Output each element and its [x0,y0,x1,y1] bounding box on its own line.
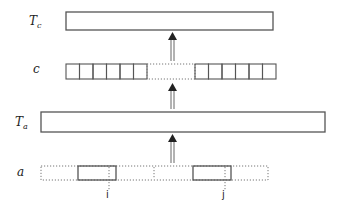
c-cell [120,64,134,79]
c-cell [80,64,94,79]
span-i-label: i [106,189,109,200]
ta-label: Ta [15,115,28,131]
ta-bar [41,112,325,132]
tc-bar [66,12,273,30]
arrow-ta-to-c [168,83,177,109]
arrow-c-to-tc [168,32,177,61]
c-gap-dotted [147,64,195,79]
span-j-label: j [221,189,225,200]
span-i-box [78,166,116,180]
a-label: a [17,165,24,179]
c-cell [249,64,263,79]
c-cell [107,64,121,79]
arrow-a-to-ta [168,134,177,163]
architecture-diagram: Tc c Ta a i j [0,0,342,205]
c-label: c [33,62,40,76]
c-cell [66,64,80,79]
c-cells-left [66,64,147,79]
c-cell [236,64,250,79]
c-cell [263,64,277,79]
c-cell [222,64,236,79]
tc-label: Tc [29,14,42,30]
c-cell [195,64,209,79]
span-j: j [193,166,231,200]
c-cell [134,64,148,79]
c-cells-right [195,64,276,79]
span-i: i [78,166,116,200]
c-cell [209,64,223,79]
c-cell [93,64,107,79]
